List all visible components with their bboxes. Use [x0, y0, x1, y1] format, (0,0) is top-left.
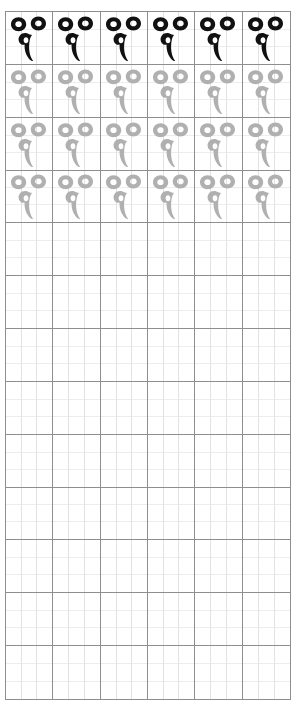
cell-subgrid-guides: [148, 435, 194, 487]
practice-cell[interactable]: [195, 593, 242, 646]
practice-cell[interactable]: [148, 593, 195, 646]
practice-cell[interactable]: [101, 593, 148, 646]
practice-cell[interactable]: [195, 382, 242, 435]
glyph-hook-stroke: [113, 33, 128, 61]
practice-cell[interactable]: [6, 171, 53, 224]
practice-cell[interactable]: [53, 382, 100, 435]
practice-cell[interactable]: [243, 488, 290, 541]
practice-cell[interactable]: [195, 223, 242, 276]
practice-cell[interactable]: [148, 171, 195, 224]
practice-cell[interactable]: [243, 118, 290, 171]
practice-cell[interactable]: [148, 488, 195, 541]
practice-cell[interactable]: [6, 276, 53, 329]
glyph-hook-stroke: [113, 86, 128, 114]
practice-cell[interactable]: [243, 593, 290, 646]
practice-cell[interactable]: [148, 276, 195, 329]
practice-cell[interactable]: [243, 540, 290, 593]
glyph-ring-left: [106, 17, 121, 31]
glyph-ring-left: [58, 70, 73, 84]
practice-cell[interactable]: [101, 382, 148, 435]
practice-cell[interactable]: [243, 329, 290, 382]
practice-cell[interactable]: [101, 118, 148, 171]
practice-cell[interactable]: [243, 276, 290, 329]
practice-cell[interactable]: [195, 540, 242, 593]
glyph-ring-left: [200, 176, 215, 190]
practice-cell[interactable]: [195, 171, 242, 224]
practice-cell[interactable]: [148, 646, 195, 699]
practice-cell[interactable]: [148, 382, 195, 435]
practice-cell[interactable]: [53, 65, 100, 118]
practice-cell[interactable]: [148, 435, 195, 488]
practice-cell[interactable]: [243, 435, 290, 488]
practice-cell[interactable]: [53, 223, 100, 276]
practice-cell[interactable]: [6, 540, 53, 593]
practice-cell[interactable]: [195, 329, 242, 382]
practice-cell[interactable]: [101, 276, 148, 329]
practice-cell[interactable]: [6, 65, 53, 118]
glyph-ring-right: [78, 175, 93, 189]
practice-cell[interactable]: [101, 540, 148, 593]
practice-cell[interactable]: [243, 646, 290, 699]
practice-cell[interactable]: [195, 118, 242, 171]
practice-cell[interactable]: [101, 65, 148, 118]
practice-cell[interactable]: [6, 118, 53, 171]
practice-cell[interactable]: [101, 646, 148, 699]
practice-cell[interactable]: [101, 488, 148, 541]
cell-subgrid-guides: [195, 488, 241, 540]
practice-cell[interactable]: [243, 382, 290, 435]
cell-subgrid-guides: [101, 276, 147, 328]
practice-cell[interactable]: [195, 488, 242, 541]
glyph-ring-left: [200, 123, 215, 137]
practice-cell[interactable]: [243, 65, 290, 118]
practice-cell[interactable]: [53, 488, 100, 541]
practice-cell[interactable]: [6, 488, 53, 541]
practice-cell[interactable]: [53, 435, 100, 488]
glyph-ring-right: [126, 122, 141, 136]
cell-subgrid-guides: [243, 223, 290, 275]
practice-cell[interactable]: [53, 540, 100, 593]
glyph-hook-stroke: [66, 191, 81, 219]
practice-cell[interactable]: [101, 12, 148, 65]
practice-cell[interactable]: [148, 12, 195, 65]
practice-cell[interactable]: [148, 540, 195, 593]
glyph-ring-left: [11, 17, 26, 31]
glyph-ring-left: [58, 176, 73, 190]
practice-cell[interactable]: [195, 646, 242, 699]
practice-cell[interactable]: [148, 223, 195, 276]
practice-cell[interactable]: [53, 646, 100, 699]
glyph-hook-stroke: [256, 191, 271, 219]
practice-cell[interactable]: [195, 435, 242, 488]
practice-cell[interactable]: [243, 171, 290, 224]
practice-cell[interactable]: [195, 276, 242, 329]
practice-cell[interactable]: [53, 12, 100, 65]
practice-cell[interactable]: [101, 223, 148, 276]
practice-cell[interactable]: [101, 435, 148, 488]
glyph-ring-right: [31, 122, 46, 136]
practice-cell[interactable]: [101, 171, 148, 224]
practice-cell[interactable]: [6, 646, 53, 699]
practice-cell[interactable]: [6, 223, 53, 276]
practice-cell[interactable]: [243, 12, 290, 65]
practice-cell[interactable]: [148, 65, 195, 118]
practice-cell[interactable]: [53, 118, 100, 171]
practice-cell[interactable]: [53, 276, 100, 329]
cell-subgrid-guides: [53, 223, 99, 275]
practice-cell[interactable]: [195, 12, 242, 65]
practice-cell[interactable]: [6, 12, 53, 65]
practice-cell[interactable]: [53, 329, 100, 382]
practice-cell[interactable]: [6, 435, 53, 488]
handwriting-worksheet: [0, 0, 306, 708]
glyph-trace-icon: [104, 121, 144, 167]
practice-cell[interactable]: [243, 223, 290, 276]
practice-cell[interactable]: [53, 171, 100, 224]
practice-cell[interactable]: [6, 382, 53, 435]
practice-cell[interactable]: [6, 593, 53, 646]
practice-cell[interactable]: [53, 593, 100, 646]
practice-cell[interactable]: [6, 329, 53, 382]
practice-cell[interactable]: [101, 329, 148, 382]
practice-cell[interactable]: [148, 329, 195, 382]
practice-cell[interactable]: [195, 65, 242, 118]
practice-cell[interactable]: [148, 118, 195, 171]
glyph-hook-stroke: [256, 139, 271, 167]
glyph-ring-left: [248, 123, 263, 137]
